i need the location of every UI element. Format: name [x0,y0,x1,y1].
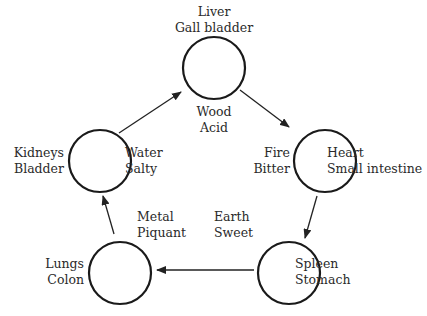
organ-heart: Heart [327,145,422,161]
wood-element-label: Wood Acid [184,104,244,136]
fire-element-label: Fire Bitter [230,145,290,177]
water-node [69,130,131,192]
arrow-water-to-wood [119,92,181,133]
organ-gall-bladder: Gall bladder [164,20,264,36]
taste-salty: Salty [125,161,163,177]
organ-lungs: Lungs [30,256,84,272]
organ-kidneys: Kidneys [0,145,64,161]
element-wood: Wood [184,104,244,120]
arrow-metal-to-water [103,196,114,234]
element-metal: Metal [137,209,186,225]
metal-organs-label: Lungs Colon [30,256,84,288]
arrow-fire-to-earth [305,196,317,238]
metal-node [89,242,151,304]
organ-bladder: Bladder [0,161,64,177]
taste-piquant: Piquant [137,225,186,241]
arrow-wood-to-fire [240,90,289,127]
element-fire: Fire [230,145,290,161]
organ-small-intestine: Small intestine [327,161,422,177]
wood-organs-label: Liver Gall bladder [164,4,264,36]
wood-node [183,37,245,99]
metal-element-label: Metal Piquant [137,209,186,241]
fire-organs-label: Heart Small intestine [327,145,422,177]
taste-sweet: Sweet [214,225,253,241]
earth-organs-label: Spleen Stomach [295,256,350,288]
water-organs-label: Kidneys Bladder [0,145,64,177]
element-water: Water [125,145,163,161]
organ-spleen: Spleen [295,256,350,272]
water-element-label: Water Salty [125,145,163,177]
earth-element-label: Earth Sweet [214,209,253,241]
organ-colon: Colon [30,272,84,288]
taste-acid: Acid [184,120,244,136]
taste-bitter: Bitter [230,161,290,177]
organ-stomach: Stomach [295,272,350,288]
organ-liver: Liver [164,4,264,20]
element-earth: Earth [214,209,253,225]
